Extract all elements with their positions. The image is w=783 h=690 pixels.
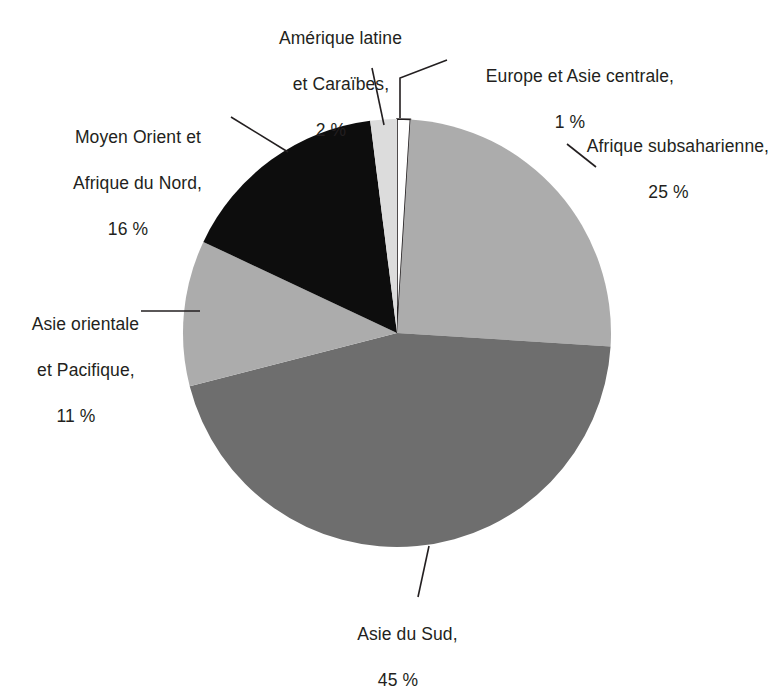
slice-label-line2: et Caraïbes,: [293, 74, 390, 94]
slice-label-latin-america-caribbean: Amérique latine et Caraïbes, 2 %: [236, 4, 426, 189]
slice-label-percent: 11 %: [0, 405, 152, 428]
slice-label-percent: 25 %: [556, 181, 781, 204]
slice-label-line1: Asie du Sud,: [357, 624, 457, 644]
slice-label-percent: 16 %: [18, 218, 238, 241]
slice-label-line2: Afrique du Nord,: [73, 173, 202, 193]
slice-label-percent: 2 %: [236, 119, 426, 142]
slice-label-line1: Asie orientale: [32, 314, 139, 334]
slice-label-south-asia: Asie du Sud, 45 %: [318, 600, 478, 690]
slice-label-line2: et Pacifique,: [37, 360, 135, 380]
slice-label-line1: Afrique subsaharienne,: [587, 136, 769, 156]
slice-label-percent: 45 %: [318, 669, 478, 690]
slice-label-line1: Amérique latine: [279, 28, 402, 48]
slice-label-middle-east-north-africa: Moyen Orient et Afrique du Nord, 16 %: [18, 103, 238, 288]
slice-label-line1: Europe et Asie centrale,: [486, 66, 674, 86]
slice-label-sub-saharan-africa: Afrique subsaharienne, 25 %: [556, 112, 781, 251]
slice-label-east-asia-pacific: Asie orientale et Pacifique, 11 %: [0, 290, 152, 475]
slice-label-line1: Moyen Orient et: [75, 127, 201, 147]
leader-line-sa: [418, 546, 429, 597]
